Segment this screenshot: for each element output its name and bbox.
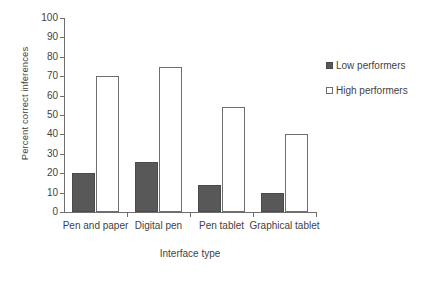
bar xyxy=(261,193,284,212)
y-tick-label: 90 xyxy=(18,32,58,42)
y-tick xyxy=(60,76,64,77)
y-tick xyxy=(60,18,64,19)
legend-label: High performers xyxy=(336,85,408,96)
y-axis-title: Percent correct inferences xyxy=(19,24,30,184)
open-square-icon xyxy=(326,87,333,94)
x-tick xyxy=(316,213,317,217)
y-tick-label: 60 xyxy=(18,91,58,101)
y-tick-label: 30 xyxy=(18,149,58,159)
y-tick-label: 100 xyxy=(18,13,58,23)
chart-legend: Low performersHigh performers xyxy=(326,60,408,110)
legend-item: Low performers xyxy=(326,60,408,71)
y-tick xyxy=(60,115,64,116)
bar xyxy=(222,107,245,212)
bar-chart-figure: Percent correct inferences 0102030405060… xyxy=(0,0,426,281)
y-axis-line xyxy=(64,18,65,213)
legend-item: High performers xyxy=(326,85,408,96)
y-tick xyxy=(60,154,64,155)
bar xyxy=(198,185,221,212)
bar xyxy=(96,76,119,212)
filled-square-icon xyxy=(326,62,333,69)
x-tick xyxy=(127,213,128,217)
y-tick xyxy=(60,37,64,38)
x-tick-label: Graphical tablet xyxy=(245,220,325,233)
y-tick xyxy=(60,134,64,135)
y-tick-label: 20 xyxy=(18,168,58,178)
bar xyxy=(159,67,182,213)
bar xyxy=(72,173,95,212)
bar xyxy=(135,162,158,212)
x-tick xyxy=(190,213,191,217)
bar xyxy=(285,134,308,212)
y-tick xyxy=(60,193,64,194)
y-tick-label: 40 xyxy=(18,129,58,139)
x-tick xyxy=(253,213,254,217)
y-tick-label: 70 xyxy=(18,71,58,81)
y-tick-label: 0 xyxy=(18,207,58,217)
x-axis-title: Interface type xyxy=(64,248,316,259)
y-tick xyxy=(60,96,64,97)
y-tick xyxy=(60,57,64,58)
y-tick-label: 80 xyxy=(18,52,58,62)
y-tick-label: 50 xyxy=(18,110,58,120)
y-tick xyxy=(60,173,64,174)
legend-label: Low performers xyxy=(336,60,405,71)
plot-area: 0102030405060708090100 Pen and paperDigi… xyxy=(64,18,316,212)
y-tick xyxy=(60,212,64,213)
y-tick-label: 10 xyxy=(18,188,58,198)
